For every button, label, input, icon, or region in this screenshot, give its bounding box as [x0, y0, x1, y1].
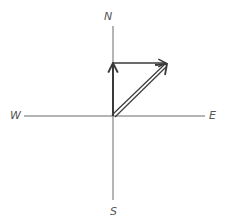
resultant-arrowhead-icon [155, 64, 167, 75]
east-label: E [209, 110, 216, 121]
resultant-vector [112, 64, 167, 117]
north-label: N [104, 11, 112, 22]
compass-diagram-canvas [0, 0, 233, 223]
west-label: W [10, 110, 21, 121]
south-label: S [110, 206, 117, 217]
